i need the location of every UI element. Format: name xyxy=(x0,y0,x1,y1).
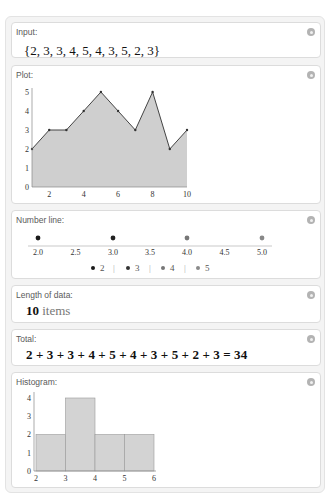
svg-text:3: 3 xyxy=(27,412,31,421)
histogram-chart: 012 34 234 56 xyxy=(0,0,330,500)
svg-text:1: 1 xyxy=(27,449,31,458)
svg-text:4: 4 xyxy=(27,394,31,403)
svg-text:4: 4 xyxy=(93,474,97,483)
svg-text:0: 0 xyxy=(27,467,31,476)
svg-text:2: 2 xyxy=(27,430,31,439)
svg-text:5: 5 xyxy=(123,474,127,483)
svg-text:2: 2 xyxy=(34,474,38,483)
svg-text:3: 3 xyxy=(64,474,68,483)
svg-text:6: 6 xyxy=(152,474,156,483)
